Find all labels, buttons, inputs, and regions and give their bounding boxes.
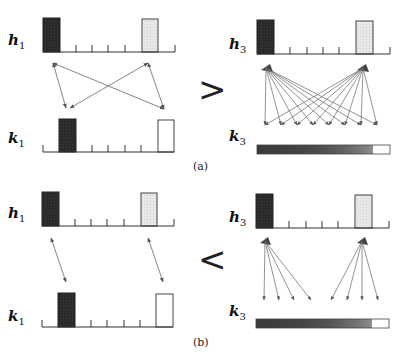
arrows-many-to-many [53, 63, 164, 109]
histogram-h1-a: h1 [8, 18, 175, 52]
histogram-k3-b: k3 [229, 302, 389, 328]
histogram-h1-b: h1 [8, 192, 174, 226]
comparison-greater-than: > [198, 69, 227, 109]
histogram-h3-a: h3 [229, 20, 390, 55]
histogram-k1-b: k1 [8, 293, 173, 327]
arrows-spread-local [260, 237, 378, 300]
label-h3: h3 [229, 208, 246, 228]
label-k3: k3 [229, 127, 246, 147]
arrows-spread-all [261, 64, 377, 125]
label-k3: k3 [229, 302, 246, 322]
label-h3: h3 [229, 35, 246, 55]
histogram-k3-a: k3 [229, 127, 390, 154]
label-k1: k1 [8, 307, 25, 327]
figure-canvas: h1 k1 > [0, 0, 408, 364]
caption-a: (a) [193, 160, 208, 173]
histogram-h3-b: h3 [229, 194, 389, 228]
panel-b: h1 k1 < [8, 192, 389, 349]
figure-svg: h1 k1 > [0, 0, 408, 364]
histogram-k1-a: k1 [8, 119, 174, 152]
caption-b: (b) [193, 336, 209, 349]
panel-a: h1 k1 > [8, 18, 390, 173]
label-k1: k1 [8, 129, 25, 149]
arrows-one-to-one [51, 238, 163, 282]
label-h1: h1 [8, 31, 25, 51]
comparison-less-than: < [198, 239, 227, 279]
label-h1: h1 [8, 204, 25, 224]
